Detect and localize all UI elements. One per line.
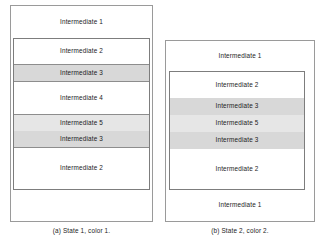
figure-two-panel-layer-stacks: Intermediate 1 Intermediate 1 Intermedia…	[0, 0, 320, 245]
inner-band-a-6: Intermediate 2	[14, 148, 149, 189]
outer-band-b-top: Intermediate 1	[166, 41, 314, 71]
band-label: Intermediate 2	[60, 165, 103, 171]
panel-b: Intermediate 1 Intermediate 1 Intermedia…	[160, 0, 320, 245]
inner-box-b: Intermediate 2 Intermediate 3 Intermedia…	[169, 71, 305, 190]
inner-band-b-1: Intermediate 2	[170, 72, 304, 98]
band-label: Intermediate 1	[60, 19, 103, 25]
band-label: Intermediate 3	[60, 70, 103, 76]
inner-band-b-3: Intermediate 5	[170, 115, 304, 132]
caption-a: (a) State 1, color 1.	[10, 228, 153, 234]
band-label: Intermediate 3	[216, 137, 259, 143]
band-label: Intermediate 2	[216, 166, 259, 172]
outer-band-a-top: Intermediate 1	[11, 6, 152, 38]
inner-band-a-3: Intermediate 4	[14, 82, 149, 114]
band-label: Intermediate 5	[60, 120, 103, 126]
inner-band-a-5: Intermediate 3	[14, 131, 149, 147]
band-label: Intermediate 3	[60, 136, 103, 142]
inner-band-a-1: Intermediate 2	[14, 39, 149, 64]
panel-a: Intermediate 1 Intermediate 1 Intermedia…	[0, 0, 160, 245]
outer-band-b-bottom: Intermediate 1	[166, 190, 314, 221]
band-label: Intermediate 5	[216, 120, 259, 126]
band-label: Intermediate 1	[219, 53, 262, 59]
band-label: Intermediate 2	[216, 82, 259, 88]
band-label: Intermediate 2	[60, 48, 103, 54]
band-label: Intermediate 3	[216, 103, 259, 109]
inner-band-b-4: Intermediate 3	[170, 132, 304, 149]
caption-b: (b) State 2, color 2.	[165, 228, 315, 234]
inner-band-a-4: Intermediate 5	[14, 115, 149, 131]
inner-band-a-2: Intermediate 3	[14, 65, 149, 81]
inner-box-a: Intermediate 2 Intermediate 3 Intermedia…	[13, 38, 150, 190]
inner-band-b-2: Intermediate 3	[170, 98, 304, 115]
inner-band-b-5: Intermediate 2	[170, 149, 304, 189]
band-label: Intermediate 1	[219, 202, 262, 208]
band-label: Intermediate 4	[60, 95, 103, 101]
